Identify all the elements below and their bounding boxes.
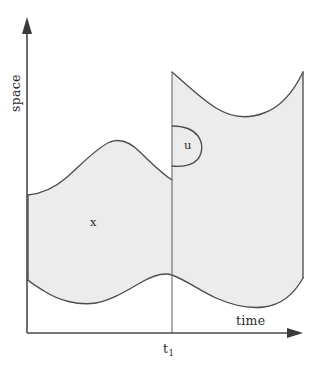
region-x-label: x bbox=[90, 215, 97, 229]
tick-label-t1-subscript: 1 bbox=[168, 348, 174, 358]
x-axis-label: time bbox=[236, 313, 265, 328]
y-axis-label: space bbox=[8, 74, 23, 112]
y-axis-arrowhead bbox=[22, 17, 32, 34]
region-x-fill bbox=[28, 72, 303, 308]
region-u-label: u bbox=[184, 138, 191, 152]
region-x bbox=[28, 72, 303, 308]
diagram-canvas bbox=[0, 0, 314, 371]
tick-label-t1: t1 bbox=[163, 341, 174, 358]
x-axis-arrowhead bbox=[287, 328, 303, 338]
space-time-figure: space time t1 x u bbox=[0, 0, 314, 371]
